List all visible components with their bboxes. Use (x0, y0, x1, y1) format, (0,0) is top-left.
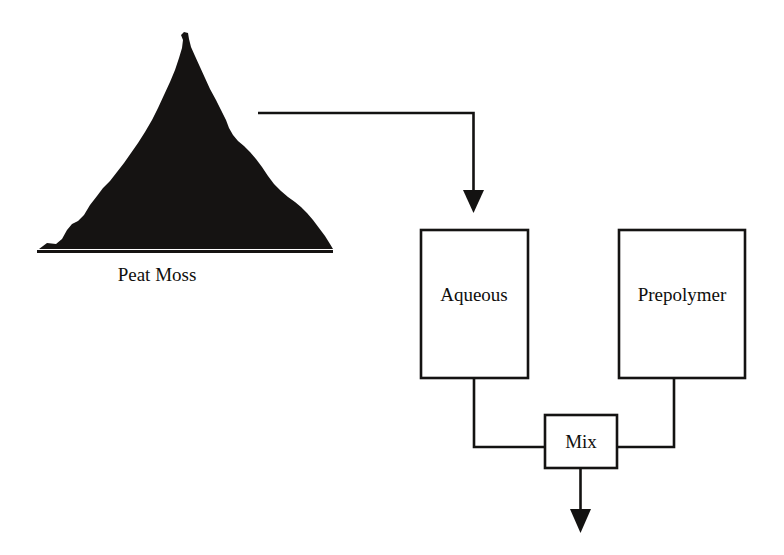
diagram-canvas: Peat Moss Aqueous Prepolymer Mix (0, 0, 784, 555)
mix-label: Mix (565, 431, 597, 452)
process-flow-diagram: Peat Moss Aqueous Prepolymer Mix (0, 0, 784, 555)
peat-moss-pile-base-shadow (37, 250, 333, 253)
prepolymer-to-mix-line (617, 378, 674, 447)
prepolymer-node[interactable]: Prepolymer (619, 230, 745, 378)
mix-node[interactable]: Mix (545, 415, 617, 468)
peat-moss-pile-shape (39, 32, 333, 249)
peat-to-aqueous-arrowhead (463, 190, 484, 213)
aqueous-to-mix-line (474, 378, 545, 447)
aqueous-label: Aqueous (440, 284, 508, 305)
aqueous-node[interactable]: Aqueous (421, 230, 528, 378)
mix-output-arrowhead (570, 509, 591, 533)
peat-moss-label: Peat Moss (118, 264, 197, 285)
prepolymer-label: Prepolymer (638, 284, 727, 305)
edge-aqueous-to-mix (474, 378, 545, 447)
edge-mix-output (570, 468, 591, 533)
peat-moss-pile: Peat Moss (37, 32, 333, 285)
peat-to-aqueous-line (258, 113, 474, 193)
edge-prepolymer-to-mix (617, 378, 674, 447)
edge-peat-to-aqueous (258, 113, 484, 213)
